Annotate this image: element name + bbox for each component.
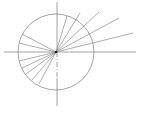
center-point: [55, 51, 58, 54]
geometric-diagram: [0, 0, 142, 114]
